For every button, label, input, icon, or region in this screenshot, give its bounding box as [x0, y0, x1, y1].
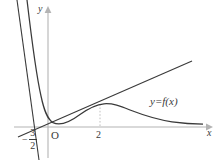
fraction-numerator: 3 — [29, 128, 36, 138]
y-axis-label: y — [38, 4, 42, 14]
minus-sign: − — [22, 135, 28, 145]
x-axis-label: x — [207, 128, 211, 138]
fraction-stack: 3 2 — [29, 128, 37, 151]
x-axis — [14, 124, 213, 131]
function-curve-label: y=f(x) — [150, 96, 178, 107]
y-axis-arrowhead — [45, 6, 52, 13]
fraction-denominator: 2 — [29, 141, 36, 151]
x-intercept-label-neg-three-halves: − 3 2 — [22, 128, 37, 151]
graph-figure: y x O 2 y=f(x) − 3 2 — [0, 0, 220, 164]
origin-label: O — [51, 130, 59, 141]
x-tick-label-2: 2 — [96, 130, 101, 140]
